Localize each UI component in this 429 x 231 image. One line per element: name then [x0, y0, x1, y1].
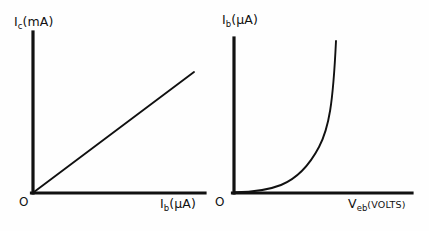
y-axis-label-unit: (μA) — [231, 12, 258, 27]
origin-label: O — [215, 196, 224, 208]
y-axis-label: Ib(μA) — [222, 14, 258, 28]
chart-panel-input-characteristic: Ib(μA) Veb(VOLTS) O — [205, 0, 429, 231]
x-axis-label-unit: (μA) — [169, 196, 196, 211]
x-axis-label-subscript: eb — [357, 203, 368, 213]
data-series-ic-vs-ib — [34, 72, 194, 192]
chart-panel-transfer-characteristic: Ic(mA) Ib(μA) O — [0, 0, 215, 231]
figure-root: Ic(mA) Ib(μA) O Ib(μA) Veb(VOLTS) O — [0, 0, 429, 231]
x-axis-label-symbol: V — [348, 196, 357, 211]
input-characteristic-plot — [205, 0, 429, 231]
y-axis-label: Ic(mA) — [14, 16, 53, 30]
y-axis-label-unit: (mA) — [22, 14, 53, 29]
data-series-ib-vs-veb — [235, 41, 336, 192]
x-axis-label: Veb(VOLTS) — [348, 198, 406, 212]
x-axis-label: Ib(μA) — [160, 198, 196, 212]
x-axis-label-unit: (VOLTS) — [367, 199, 405, 210]
origin-label: O — [19, 196, 28, 208]
